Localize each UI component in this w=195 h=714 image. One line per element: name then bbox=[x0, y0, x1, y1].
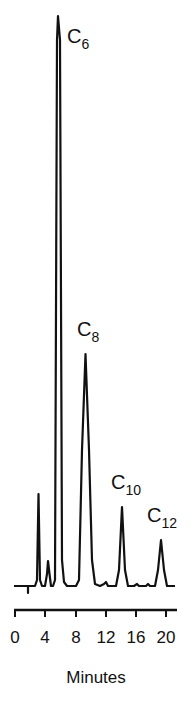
peak-label-c12-sub: 12 bbox=[161, 515, 177, 531]
peak-label-c6: C6 bbox=[67, 25, 89, 52]
chromatogram-chart: C6 C8 C10 C12 0 4 8 12 16 20 Minutes bbox=[0, 0, 195, 714]
x-tick-4: 4 bbox=[40, 628, 49, 647]
peak-label-c12: C12 bbox=[147, 504, 177, 531]
peak-label-c8-sub: 8 bbox=[91, 329, 99, 345]
peak-label-c6-sub: 6 bbox=[81, 36, 89, 52]
x-tick-20: 20 bbox=[157, 628, 176, 647]
peak-label-c10-sub: 10 bbox=[125, 482, 141, 498]
peak-label-c10: C10 bbox=[111, 471, 141, 498]
x-tick-8: 8 bbox=[71, 628, 80, 647]
x-axis-label: Minutes bbox=[66, 668, 126, 687]
x-tick-0: 0 bbox=[10, 628, 19, 647]
x-tick-16: 16 bbox=[127, 628, 146, 647]
peak-label-c8: C8 bbox=[77, 318, 99, 345]
x-axis-tick-labels: 0 4 8 12 16 20 bbox=[10, 628, 175, 647]
x-tick-12: 12 bbox=[97, 628, 116, 647]
